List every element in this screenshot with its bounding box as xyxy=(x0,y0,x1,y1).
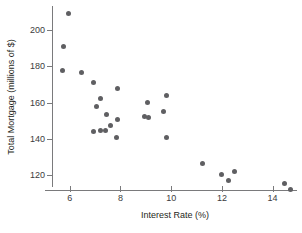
data-point xyxy=(98,128,103,133)
y-axis-tick-label: 200 xyxy=(17,26,45,35)
data-point xyxy=(145,100,150,105)
data-point xyxy=(282,181,287,186)
scatter-plot-figure: Total Mortgage (millions of $) 120140160… xyxy=(0,0,302,233)
data-point xyxy=(232,169,237,174)
data-point xyxy=(200,161,205,166)
data-point xyxy=(61,44,66,49)
data-point xyxy=(91,129,96,134)
data-point xyxy=(66,11,71,16)
x-axis-tick-label: 12 xyxy=(210,194,234,203)
data-point xyxy=(164,135,169,140)
data-point xyxy=(164,93,169,98)
x-axis-tick-label: 8 xyxy=(108,194,132,203)
y-axis-tick-label: 180 xyxy=(17,62,45,71)
data-point xyxy=(114,135,119,140)
data-point xyxy=(108,123,113,128)
y-axis-tick-labels: 120140160180200 xyxy=(12,0,45,233)
y-axis-tick-label: 160 xyxy=(17,99,45,108)
data-point xyxy=(91,80,96,85)
data-point xyxy=(146,115,151,120)
data-point xyxy=(226,178,231,183)
data-point xyxy=(115,86,120,91)
data-point xyxy=(288,187,293,192)
data-point xyxy=(79,70,84,75)
data-point xyxy=(98,96,103,101)
y-axis-tick-label: 120 xyxy=(17,171,45,180)
data-point xyxy=(94,104,99,109)
x-axis-tick-label: 14 xyxy=(261,194,285,203)
x-axis-tick-label: 10 xyxy=(159,194,183,203)
x-axis-tick-label: 6 xyxy=(58,194,82,203)
y-axis-tick-label: 140 xyxy=(17,135,45,144)
plot-area xyxy=(52,8,298,190)
data-point xyxy=(60,68,65,73)
data-point xyxy=(115,117,120,122)
data-point xyxy=(104,112,109,117)
data-point xyxy=(103,128,108,133)
x-axis-title: Interest Rate (%) xyxy=(52,210,298,220)
data-point xyxy=(161,109,166,114)
data-point xyxy=(219,172,224,177)
